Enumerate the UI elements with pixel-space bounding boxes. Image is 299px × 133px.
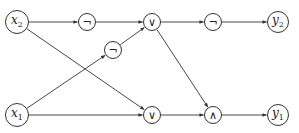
- edge-arrow: [157, 30, 208, 108]
- not-gate-node: ¬: [204, 13, 222, 31]
- input-node-x1: x1: [5, 103, 29, 127]
- node-label: y: [272, 13, 279, 27]
- or-gate-node: ∨: [143, 13, 161, 31]
- or-gate-node: ∨: [143, 106, 161, 124]
- edge-arrow: [120, 28, 144, 45]
- not-symbol: ¬: [208, 17, 217, 28]
- output-node-y1: y1: [267, 104, 289, 126]
- node-subscript: 2: [279, 21, 284, 30]
- node-subscript: 1: [18, 114, 23, 123]
- output-node-y2: y2: [267, 11, 289, 33]
- edge-arrow: [27, 29, 144, 110]
- or-symbol: ∨: [148, 110, 156, 121]
- or-symbol: ∨: [148, 17, 156, 28]
- node-subscript: 2: [18, 21, 23, 30]
- not-symbol: ¬: [82, 17, 91, 28]
- node-label: x: [11, 106, 18, 120]
- node-subscript: 1: [279, 114, 284, 123]
- circuit-diagram: x2 ¬ ∨ ¬ y2 ¬ x1 ∨ ∧ y1: [0, 0, 299, 133]
- and-symbol: ∧: [209, 110, 217, 121]
- and-gate-node: ∧: [204, 106, 222, 124]
- input-node-x2: x2: [5, 10, 29, 34]
- node-label: x: [11, 13, 18, 27]
- node-label: y: [272, 106, 279, 120]
- not-gate-node: ¬: [104, 41, 122, 59]
- not-gate-node: ¬: [78, 13, 96, 31]
- edge-arrow: [27, 55, 105, 108]
- not-symbol: ¬: [108, 45, 117, 56]
